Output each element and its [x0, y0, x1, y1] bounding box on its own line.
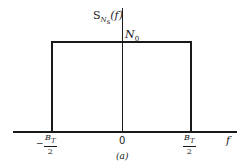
psd-figure: SNs(f) N0 − BT 2 0 BT 2 f (a): [0, 0, 250, 167]
y-axis-label: SNs(f): [93, 10, 123, 27]
y-label-arg: (f): [110, 9, 123, 22]
tick-right: BT 2: [183, 134, 196, 156]
psd-left-edge: [51, 41, 53, 132]
y-axis: [122, 8, 123, 132]
y-label-main: S: [93, 9, 101, 22]
level-label: N0: [125, 29, 139, 43]
figure-caption: (a): [116, 152, 128, 161]
level-main: N: [125, 28, 135, 41]
tick-left-num-sub: T: [51, 137, 56, 145]
tick-left-den: 2: [44, 147, 57, 156]
tick-left: BT 2: [44, 134, 57, 156]
tick-right-num-sub: T: [190, 137, 195, 145]
tick-zero: 0: [119, 136, 125, 146]
level-sub: 0: [135, 35, 139, 43]
psd-top-edge: [51, 41, 192, 43]
x-axis-label: f: [226, 135, 230, 146]
psd-right-edge: [190, 41, 192, 132]
tick-left-sign: −: [36, 139, 44, 148]
tick-right-den: 2: [183, 147, 196, 156]
